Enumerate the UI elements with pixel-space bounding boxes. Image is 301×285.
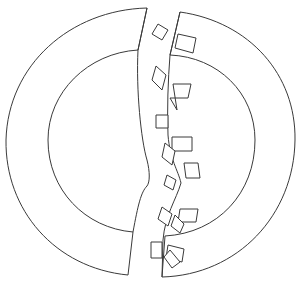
- diagram-canvas: [0, 0, 301, 285]
- left-half-piece: [6, 8, 149, 275]
- fragment-frag-13: [151, 242, 162, 258]
- broken-ring-diagram: [0, 0, 301, 285]
- fragment-frag-10: [178, 209, 198, 222]
- fragment-frag-5: [156, 115, 168, 128]
- fragment-frag-1: [152, 24, 168, 40]
- fragment-frag-4: [170, 84, 191, 110]
- left-half-outline: [6, 8, 147, 275]
- ring-pieces: [6, 8, 295, 277]
- fragment-frag-3: [152, 66, 166, 90]
- fragment-frag-8: [184, 163, 200, 178]
- fragment-frag-9: [164, 175, 176, 190]
- fragment-frag-6: [172, 137, 192, 151]
